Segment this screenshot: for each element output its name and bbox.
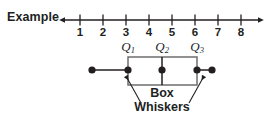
whiskers-callout-label: Whiskers <box>134 100 190 114</box>
q1-subscript: 1 <box>131 45 135 55</box>
q2-label: Q2 <box>155 39 169 55</box>
tick-label-7: 7 <box>215 26 221 38</box>
q1-label: Q1 <box>121 39 135 55</box>
tick-label-5: 5 <box>169 26 175 38</box>
box-plot <box>88 57 215 85</box>
tick-label-4: 4 <box>146 26 152 38</box>
figure-container: Example <box>0 0 271 119</box>
tick-label-2: 2 <box>100 26 106 38</box>
median-dot <box>158 66 165 73</box>
q3-label: Q3 <box>190 39 204 55</box>
tick-label-8: 8 <box>238 26 244 38</box>
q1-dot <box>124 66 131 73</box>
max-dot <box>208 66 215 73</box>
tick-label-6: 6 <box>192 26 198 38</box>
number-line-axis <box>65 15 258 26</box>
q3-dot <box>193 66 200 73</box>
min-dot <box>88 66 95 73</box>
whiskers-leader-left <box>126 76 141 103</box>
q3-subscript: 3 <box>200 45 204 55</box>
tick-label-3: 3 <box>123 26 129 38</box>
tick-label-1: 1 <box>77 26 83 38</box>
box-callout-label: Box <box>150 86 174 100</box>
q2-subscript: 2 <box>165 45 169 55</box>
q3-letter: Q <box>190 39 199 54</box>
q1-letter: Q <box>121 39 130 54</box>
q2-letter: Q <box>155 39 164 54</box>
